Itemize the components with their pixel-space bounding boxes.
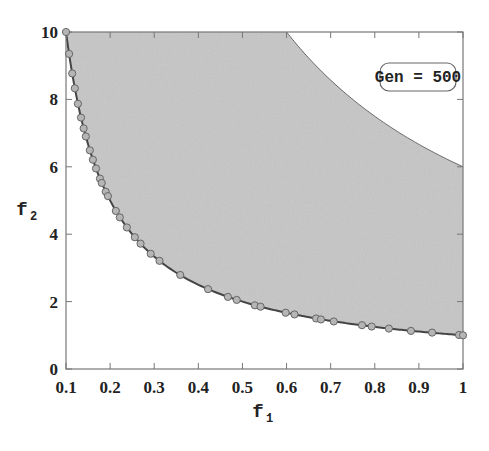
population-point xyxy=(98,179,105,186)
population-point xyxy=(65,50,72,57)
population-point xyxy=(62,28,69,35)
population-point xyxy=(291,311,298,318)
population-point xyxy=(86,147,93,154)
population-point xyxy=(156,257,163,264)
y-tick-label: 6 xyxy=(50,158,59,177)
population-point xyxy=(459,332,466,339)
svg-text:f: f xyxy=(16,199,27,221)
x-tick-label: 0.6 xyxy=(276,378,297,397)
x-tick-label: 0.2 xyxy=(99,378,120,397)
population-point xyxy=(385,325,392,332)
pareto-chart: 0.10.20.30.40.50.60.70.80.910246810 Gen … xyxy=(0,0,489,451)
population-point xyxy=(204,286,211,293)
population-point xyxy=(116,214,123,221)
svg-text:f: f xyxy=(252,401,263,423)
x-tick-label: 0.1 xyxy=(55,378,76,397)
x-axis-label: f 1 xyxy=(252,401,273,426)
y-tick-label: 0 xyxy=(50,360,59,379)
population-point xyxy=(368,323,375,330)
population-point xyxy=(104,193,111,200)
y-axis-label: f 2 xyxy=(16,199,37,224)
x-tick-label: 0.9 xyxy=(408,378,429,397)
population-point xyxy=(123,224,130,231)
x-tick-label: 0.3 xyxy=(144,378,165,397)
population-point xyxy=(177,271,184,278)
population-point xyxy=(131,234,138,241)
population-point xyxy=(71,85,78,92)
population-point xyxy=(77,114,84,121)
y-tick-label: 8 xyxy=(50,90,59,109)
population-point xyxy=(233,296,240,303)
population-point xyxy=(257,303,264,310)
population-point xyxy=(69,70,76,77)
population-point xyxy=(92,165,99,172)
population-point xyxy=(82,133,89,140)
population-point xyxy=(74,100,81,107)
x-tick-label: 0.5 xyxy=(232,378,253,397)
y-tick-label: 10 xyxy=(41,23,58,42)
population-point xyxy=(89,156,96,163)
x-tick-label: 0.8 xyxy=(364,378,385,397)
population-point xyxy=(80,125,87,132)
population-point xyxy=(407,327,414,334)
population-point xyxy=(282,309,289,316)
y-tick-label: 2 xyxy=(50,293,59,312)
svg-text:1: 1 xyxy=(266,412,273,426)
generation-annotation: Gen = 500 xyxy=(375,63,461,91)
population-point xyxy=(358,322,365,329)
population-point xyxy=(137,240,144,247)
population-point xyxy=(317,316,324,323)
population-point xyxy=(429,329,436,336)
population-point xyxy=(147,250,154,257)
population-point xyxy=(112,207,119,214)
svg-text:2: 2 xyxy=(30,210,37,224)
y-tick-label: 4 xyxy=(50,225,59,244)
x-tick-label: 0.4 xyxy=(188,378,210,397)
population-point xyxy=(224,293,231,300)
population-point xyxy=(330,318,337,325)
x-tick-label: 0.7 xyxy=(320,378,342,397)
x-tick-label: 1 xyxy=(459,378,468,397)
generation-label: Gen = 500 xyxy=(375,69,461,87)
